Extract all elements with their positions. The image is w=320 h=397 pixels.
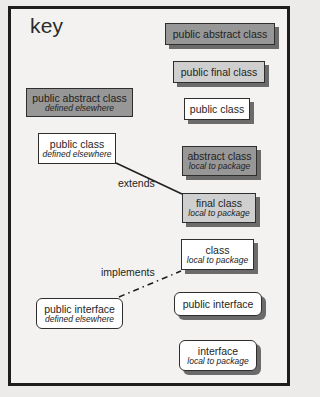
box-label: public final class — [181, 66, 257, 78]
implements-label: implements — [101, 266, 155, 278]
class-local-box: class local to package — [181, 239, 254, 270]
ext-public-class-box: public class defined elsewhere — [38, 133, 116, 164]
box-sublabel: defined elsewhere — [43, 150, 112, 160]
box-label: public class — [190, 103, 244, 115]
final-class-local-box: final class local to package — [182, 193, 256, 223]
extends-label: extends — [118, 177, 155, 189]
box-sublabel: local to package — [188, 209, 249, 219]
box-label: public interface — [183, 298, 254, 310]
box-label: public abstract class — [32, 92, 127, 104]
box-label: public class — [50, 138, 104, 150]
abstract-class-local-box: abstract class local to package — [182, 146, 257, 176]
box-label: interface — [198, 345, 238, 357]
ext-public-interface-box: public interface defined elsewhere — [36, 298, 123, 329]
public-interface-box: public interface — [174, 292, 262, 316]
box-sublabel: defined elsewhere — [45, 104, 114, 114]
ext-public-abstract-class-box: public abstract class defined elsewhere — [26, 88, 133, 117]
box-sublabel: local to package — [187, 357, 248, 367]
box-sublabel: defined elsewhere — [45, 315, 114, 325]
public-final-class-box: public final class — [173, 61, 265, 83]
box-sublabel: local to package — [187, 256, 248, 266]
box-label: public abstract class — [173, 28, 268, 40]
public-abstract-class-box: public abstract class — [165, 23, 275, 45]
public-class-box: public class — [184, 98, 250, 120]
box-label: class — [206, 244, 230, 256]
box-label: public interface — [44, 303, 115, 315]
box-sublabel: local to package — [189, 162, 250, 172]
interface-local-box: interface local to package — [179, 340, 257, 371]
